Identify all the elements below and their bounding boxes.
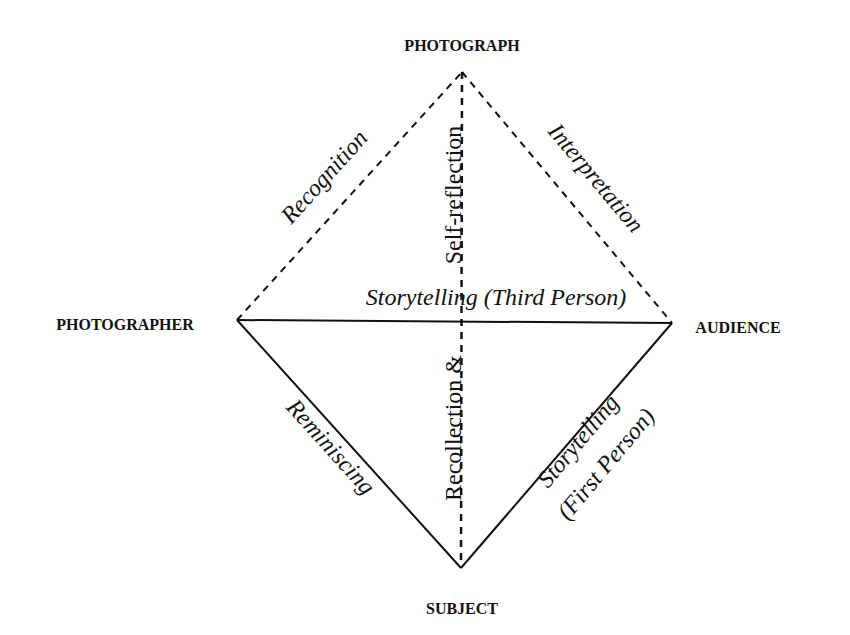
label-interpretation: Interpretation xyxy=(543,118,650,238)
diagram-canvas: PHOTOGRAPH PHOTOGRAPHER AUDIENCE SUBJECT… xyxy=(0,0,850,635)
label-recognition: Recognition xyxy=(275,125,373,229)
label-reminiscing: Reminiscing xyxy=(281,393,380,499)
node-subject: SUBJECT xyxy=(426,600,498,617)
label-recollection: Recollection & xyxy=(440,355,466,501)
edge-photographer-audience xyxy=(237,320,672,323)
diagram-svg: PHOTOGRAPH PHOTOGRAPHER AUDIENCE SUBJECT… xyxy=(0,0,850,635)
node-photograph: PHOTOGRAPH xyxy=(404,37,520,54)
label-self-reflection: Self-reflection xyxy=(440,126,466,265)
edge-photographer-subject xyxy=(237,320,461,568)
label-storytelling-third-person: Storytelling (Third Person) xyxy=(366,284,626,310)
edge-photographer-photograph xyxy=(237,72,462,320)
node-photographer: PHOTOGRAPHER xyxy=(56,316,194,333)
node-audience: AUDIENCE xyxy=(695,319,780,336)
